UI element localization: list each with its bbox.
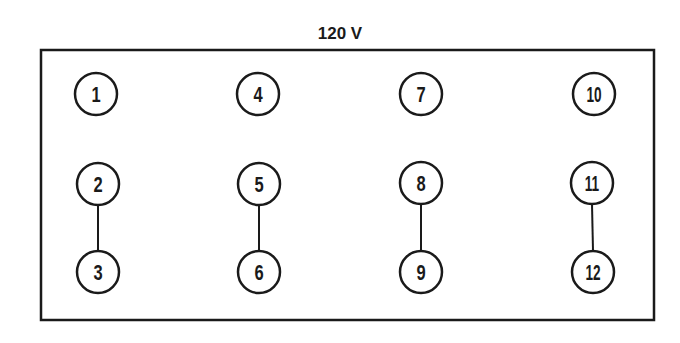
jumper-11-12: [592, 204, 593, 251]
terminal-11: 11: [571, 162, 613, 204]
terminal-label: 6: [254, 260, 263, 285]
terminal-label: 12: [585, 260, 600, 285]
jumpers: [98, 204, 593, 251]
terminal-label: 1: [91, 82, 100, 107]
terminal-1: 1: [75, 73, 117, 115]
terminal-7: 7: [400, 73, 442, 115]
terminal-label: 9: [416, 260, 425, 285]
terminal-box-outline: [41, 50, 654, 320]
voltage-title: 120 V: [318, 24, 363, 43]
terminal-connection-diagram: 120 V 1 2 3 4 5 6 7 8 9: [0, 0, 680, 343]
terminal-label: 3: [93, 260, 102, 285]
terminal-2: 2: [77, 163, 119, 205]
terminal-label: 5: [254, 172, 263, 197]
terminal-label: 2: [93, 172, 102, 197]
terminal-label: 8: [416, 171, 425, 196]
terminal-label: 4: [253, 82, 262, 107]
terminal-8: 8: [400, 162, 442, 204]
terminal-5: 5: [238, 163, 280, 205]
terminal-label: 10: [586, 82, 601, 107]
terminal-label: 11: [585, 171, 599, 196]
terminal-9: 9: [400, 251, 442, 293]
terminal-10: 10: [573, 73, 615, 115]
terminal-12: 12: [572, 251, 614, 293]
terminal-6: 6: [238, 251, 280, 293]
terminal-4: 4: [237, 73, 279, 115]
terminal-label: 7: [416, 82, 425, 107]
terminal-3: 3: [77, 251, 119, 293]
